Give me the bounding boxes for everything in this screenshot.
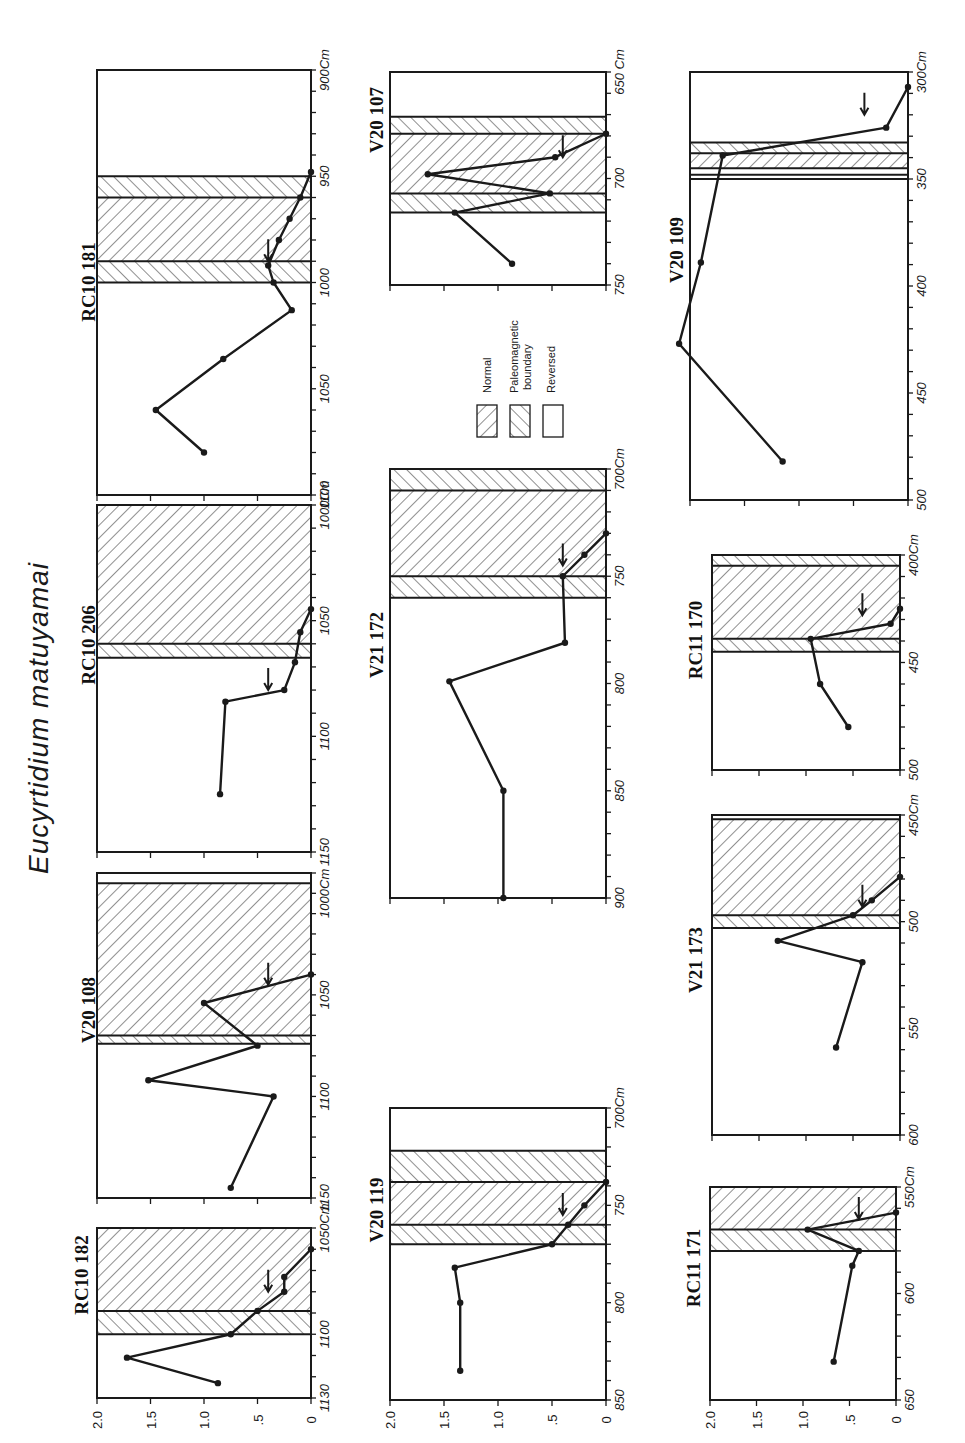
value-tick-label: .5 xyxy=(545,1415,560,1426)
depth-tick-label: 650 xyxy=(902,1388,917,1410)
data-point xyxy=(845,724,851,730)
depth-tick-label: 1100 xyxy=(317,1082,332,1111)
data-point xyxy=(897,874,903,880)
depth-tick-label: 350 xyxy=(914,167,929,189)
core-label: RC11 170 xyxy=(685,601,706,680)
data-point xyxy=(698,259,704,265)
data-point xyxy=(281,687,287,693)
data-point xyxy=(581,1202,587,1208)
data-point xyxy=(289,307,295,313)
depth-tick-label: 550 xyxy=(906,1017,921,1039)
data-point xyxy=(830,1358,836,1364)
depth-tick-label: 850 xyxy=(612,779,627,801)
core-label: RC10 182 xyxy=(71,1235,92,1315)
data-point xyxy=(254,1308,260,1314)
value-tick-label: 0 xyxy=(599,1416,614,1423)
core-label: RC11 171 xyxy=(683,1229,704,1308)
data-point xyxy=(775,938,781,944)
depth-tick-label: 700Cm xyxy=(612,1087,627,1129)
data-point xyxy=(720,152,726,158)
value-tick-label: .5 xyxy=(843,1415,858,1426)
value-tick-label: 1.5 xyxy=(144,1411,159,1429)
arrow-icon xyxy=(860,93,868,115)
data-point xyxy=(869,897,875,903)
zone-normal xyxy=(97,198,311,262)
data-point xyxy=(153,407,159,413)
value-tick-label: 2.0 xyxy=(703,1411,718,1429)
value-tick-label: 1.5 xyxy=(437,1411,452,1429)
data-point xyxy=(308,606,314,612)
data-point xyxy=(276,237,282,243)
core-label: V20 108 xyxy=(78,977,99,1043)
data-point xyxy=(562,640,568,646)
value-tick-label: 1.5 xyxy=(750,1411,765,1429)
depth-tick-label: 550Cm xyxy=(902,1166,917,1208)
zone-boundary xyxy=(712,555,900,566)
depth-tick-label: 1100 xyxy=(317,1320,332,1349)
depth-tick-label: 450 xyxy=(906,651,921,673)
data-point xyxy=(581,552,587,558)
panel-v20-108: 1000Cm105011001150V20 108 xyxy=(78,869,332,1212)
value-tick-label: 0 xyxy=(889,1416,904,1423)
depth-tick-label: 500 xyxy=(906,910,921,932)
data-point xyxy=(220,356,226,362)
panel-v20-107: 650 Cm700750V20 107 xyxy=(366,49,627,296)
data-point xyxy=(833,1044,839,1050)
data-point xyxy=(145,1077,151,1083)
core-label: V20 109 xyxy=(666,217,687,283)
legend-label-reversed: Reversed xyxy=(545,346,557,393)
value-tick-label: 1.0 xyxy=(796,1411,811,1429)
data-point xyxy=(817,681,823,687)
data-point xyxy=(856,1248,862,1254)
data-point xyxy=(883,124,889,130)
data-point xyxy=(270,1093,276,1099)
data-point xyxy=(457,1368,463,1374)
data-point xyxy=(452,209,458,215)
data-point xyxy=(779,458,785,464)
panel-rc10-182: 1050Cm11001130RC10 182 xyxy=(71,1203,332,1412)
panel-rc10-181: 900Cm950100010501100RC10 181 xyxy=(78,49,332,509)
zone-boundary xyxy=(390,576,606,597)
zone-boundary xyxy=(390,1151,606,1182)
depth-tick-label: 800 xyxy=(612,672,627,694)
panel-frame xyxy=(690,72,908,500)
data-point xyxy=(292,659,298,665)
data-point xyxy=(281,1289,287,1295)
zone-boundary xyxy=(710,1230,896,1251)
data-point xyxy=(603,1179,609,1185)
data-point xyxy=(603,530,609,536)
data-point xyxy=(270,279,276,285)
depth-tick-label: 1000Cm xyxy=(317,480,332,529)
zone-boundary xyxy=(97,1036,311,1044)
value-tick-label: .5 xyxy=(251,1415,266,1426)
data-point xyxy=(893,1209,899,1215)
legend-label-boundary-line1: Paleomagnetic xyxy=(508,320,520,393)
data-point xyxy=(850,912,856,918)
panel-v21-173: 450Cm500550600V21 173 xyxy=(685,794,921,1146)
depth-tick-label: 600 xyxy=(906,1123,921,1145)
core-label: V20 119 xyxy=(366,1178,387,1243)
data-point xyxy=(308,1246,314,1252)
panel-v21-172: 700Cm750800850900V21 172 xyxy=(366,448,627,909)
data-point xyxy=(297,629,303,635)
depth-tick-label: 1000Cm xyxy=(317,869,332,918)
zone-boundary xyxy=(390,469,606,490)
figure-title: Eucyrtidium matuyamai xyxy=(23,562,54,874)
data-point xyxy=(897,606,903,612)
depth-tick-label: 400 xyxy=(914,274,929,296)
data-point xyxy=(452,1264,458,1270)
depth-tick-label: 1150 xyxy=(317,837,332,866)
data-point xyxy=(222,698,228,704)
core-label: V21 173 xyxy=(685,927,706,993)
data-point xyxy=(217,791,223,797)
value-tick-label: 1.0 xyxy=(491,1411,506,1429)
depth-tick-label: 950 xyxy=(317,165,332,187)
data-point xyxy=(201,1000,207,1006)
data-point xyxy=(509,261,515,267)
arrow-icon xyxy=(264,668,272,690)
legend-item-boundary: Paleomagnetic boundary xyxy=(508,320,533,437)
data-point xyxy=(804,1226,810,1232)
data-point xyxy=(457,1299,463,1305)
data-point xyxy=(676,341,682,347)
zone-boundary xyxy=(97,1311,311,1334)
